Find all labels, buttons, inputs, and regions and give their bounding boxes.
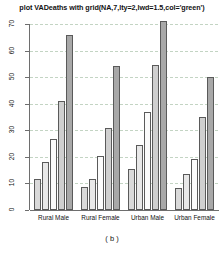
y-tick-label: 0 xyxy=(8,199,15,221)
y-tick-mark xyxy=(25,210,29,211)
bar xyxy=(199,117,206,210)
bar xyxy=(97,156,104,210)
figure-panel: plot VADeaths with grid(NA,7,lty=2,lwd=1… xyxy=(0,0,224,255)
bar xyxy=(105,128,112,210)
x-group-label: Urban Female xyxy=(171,214,218,221)
y-tick-label: 20 xyxy=(8,145,15,167)
y-tick-label: 30 xyxy=(8,119,15,141)
y-tick-label: 60 xyxy=(8,39,15,61)
chart-title: plot VADeaths with grid(NA,7,lty=2,lwd=1… xyxy=(0,3,224,12)
y-tick-label: 70 xyxy=(8,13,15,35)
bar xyxy=(42,162,49,210)
bar xyxy=(66,35,73,210)
bar xyxy=(152,65,159,210)
bar xyxy=(191,159,198,210)
bar xyxy=(160,21,167,210)
y-tick-mark xyxy=(25,130,29,131)
bar xyxy=(136,145,143,210)
bar xyxy=(81,187,88,210)
bar xyxy=(89,179,96,210)
y-tick-mark xyxy=(25,104,29,105)
y-tick-mark xyxy=(25,157,29,158)
bar xyxy=(175,188,182,210)
y-tick-label: 50 xyxy=(8,66,15,88)
y-tick-label: 10 xyxy=(8,172,15,194)
x-group-label: Rural Male xyxy=(30,214,77,221)
bar xyxy=(207,77,214,210)
bar xyxy=(113,66,120,210)
bar xyxy=(50,139,57,210)
bar xyxy=(183,174,190,210)
x-group-label: Urban Male xyxy=(124,214,171,221)
bar xyxy=(144,112,151,210)
bar xyxy=(128,169,135,210)
figure-caption: ( b ) xyxy=(0,234,224,243)
bar xyxy=(34,179,41,210)
y-tick-mark xyxy=(25,183,29,184)
bars-layer xyxy=(30,24,218,210)
y-tick-mark xyxy=(25,51,29,52)
y-tick-mark xyxy=(25,24,29,25)
bar xyxy=(58,101,65,210)
x-axis-line xyxy=(30,210,219,211)
plot-area xyxy=(30,24,218,210)
x-group-label: Rural Female xyxy=(77,214,124,221)
y-tick-label: 40 xyxy=(8,92,15,114)
y-tick-mark xyxy=(25,77,29,78)
